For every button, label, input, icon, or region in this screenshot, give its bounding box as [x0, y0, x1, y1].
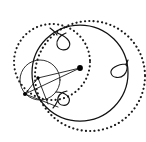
- vertex-left-lower: [23, 92, 27, 96]
- geometry-diagram: [0, 0, 146, 142]
- center-point: [77, 65, 83, 71]
- figure-root: [0, 0, 146, 142]
- vertex-left-upper: [36, 76, 39, 79]
